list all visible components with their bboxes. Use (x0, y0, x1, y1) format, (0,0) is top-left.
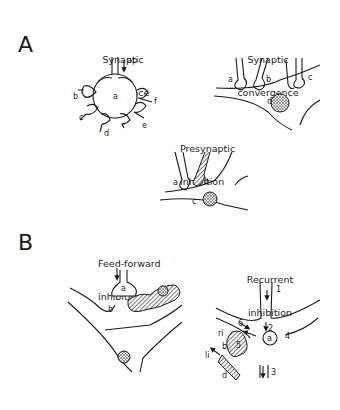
svg-text:b: b (204, 177, 209, 186)
svg-text:a: a (173, 178, 178, 187)
feedforward-diagram: a b (68, 268, 182, 372)
svg-text:ap: ap (127, 56, 137, 65)
svg-text:1: 1 (276, 285, 281, 294)
svg-text:a: a (121, 284, 126, 293)
svg-text:3: 3 (271, 368, 276, 377)
svg-text:4: 4 (285, 332, 290, 341)
svg-text:a: a (267, 334, 272, 343)
svg-text:a: a (113, 92, 118, 101)
svg-text:f: f (154, 97, 157, 106)
svg-text:li: li (205, 351, 209, 360)
divergence-diagram: ap a b c d e f (73, 56, 157, 138)
svg-text:a: a (228, 75, 233, 84)
svg-text:ri: ri (218, 329, 224, 338)
neural-circuit-diagram: ap a b c d e f a b c d (0, 0, 340, 410)
svg-text:e: e (142, 121, 147, 130)
recurrent-diagram: 1 2 a 4 3 6 5 ri b li d (205, 282, 320, 380)
svg-text:b: b (73, 92, 78, 101)
svg-text:6: 6 (238, 319, 243, 328)
svg-text:d: d (267, 97, 272, 106)
svg-text:b: b (222, 342, 227, 351)
svg-text:d: d (104, 129, 109, 138)
svg-text:c: c (192, 197, 196, 206)
svg-text:b: b (266, 75, 271, 84)
svg-text:5: 5 (236, 341, 241, 350)
convergence-diagram: a b c d (214, 58, 320, 130)
svg-text:d: d (222, 371, 227, 380)
svg-text:b: b (108, 305, 113, 314)
presynaptic-diagram: a b c (160, 152, 248, 210)
svg-text:c: c (308, 73, 312, 82)
svg-text:c: c (79, 113, 83, 122)
